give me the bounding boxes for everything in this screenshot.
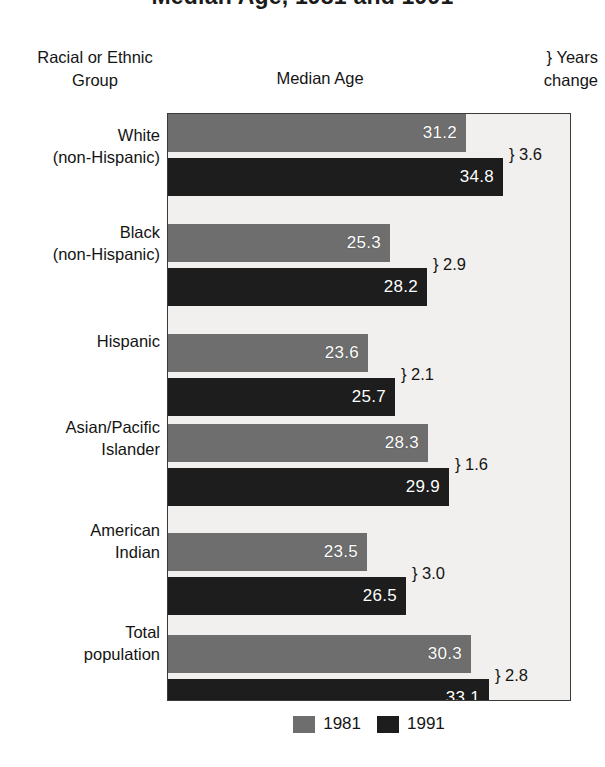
bar-hispanic-1981: 23.6 <box>167 334 368 372</box>
bar-asian-pacific-islander-1991: 29.9 <box>167 468 449 506</box>
bar-value-label: 28.3 <box>385 433 419 453</box>
chart-title: Median Age, 1981 and 1991 <box>0 0 605 10</box>
category-label-line2: Indian <box>0 541 160 563</box>
bar-value-label: 23.6 <box>325 343 359 363</box>
column-header-years-change: } Years change <box>480 46 598 92</box>
category-label-line1: Asian/Pacific <box>0 416 160 438</box>
legend-swatch-1981-icon <box>293 716 315 733</box>
category-label-line2: Islander <box>0 438 160 460</box>
bar-value-label: 31.2 <box>423 123 457 143</box>
bar-value-label: 26.5 <box>363 586 397 606</box>
category-label-line1: Black <box>0 221 160 243</box>
bar-value-label: 33.1 <box>446 688 480 701</box>
category-label-black: Black (non-Hispanic) <box>0 221 160 265</box>
bar-value-label: 25.7 <box>352 387 386 407</box>
bar-american-indian-1991: 26.5 <box>167 577 406 615</box>
bar-value-label: 29.9 <box>406 477 440 497</box>
legend-label-1981: 1981 <box>323 714 361 734</box>
category-label-line1: American <box>0 519 160 541</box>
bar-white-1991: 34.8 <box>167 158 503 196</box>
category-label-line2: population <box>0 643 160 665</box>
category-label-total-population: Total population <box>0 621 160 665</box>
category-label-line2: (non-Hispanic) <box>0 243 160 265</box>
column-header-years-line2: change <box>480 69 598 92</box>
bar-black-1981: 25.3 <box>167 224 390 262</box>
category-label-line1: Total <box>0 621 160 643</box>
change-label-total-population: } 2.8 <box>495 666 528 685</box>
change-label-white: } 3.6 <box>509 145 542 164</box>
bar-value-label: 23.5 <box>324 542 358 562</box>
bar-white-1981: 31.2 <box>167 114 466 152</box>
bar-total-population-1981: 30.3 <box>167 635 471 673</box>
category-label-asian-pacific-islander: Asian/Pacific Islander <box>0 416 160 460</box>
bar-asian-pacific-islander-1981: 28.3 <box>167 424 428 462</box>
legend-swatch-1991-icon <box>377 716 399 733</box>
bar-american-indian-1981: 23.5 <box>167 533 367 571</box>
legend-item-1991: 1991 <box>377 714 445 734</box>
bar-black-1991: 28.2 <box>167 268 427 306</box>
column-header-median-age: Median Age <box>240 69 400 88</box>
column-header-group-line1: Racial or <box>37 48 102 66</box>
column-header-group: Racial or Ethnic Group <box>22 46 168 92</box>
bar-hispanic-1991: 25.7 <box>167 378 395 416</box>
column-header-years-line1: } Years <box>480 46 598 69</box>
bar-value-label: 28.2 <box>384 277 418 297</box>
category-label-american-indian: American Indian <box>0 519 160 563</box>
category-label-line2: (non-Hispanic) <box>0 146 160 168</box>
change-label-black: } 2.9 <box>433 255 466 274</box>
legend-label-1991: 1991 <box>407 714 445 734</box>
plot-area: 31.2 34.8 } 3.6 25.3 28.2 } 2.9 23.6 25.… <box>167 113 571 701</box>
category-label-line1: Hispanic <box>0 330 160 352</box>
category-label-white: White (non-Hispanic) <box>0 124 160 168</box>
category-label-line1: White <box>0 124 160 146</box>
legend-item-1981: 1981 <box>293 714 361 734</box>
legend: 1981 1991 <box>167 714 571 734</box>
change-label-hispanic: } 2.1 <box>401 365 434 384</box>
bar-value-label: 30.3 <box>428 644 462 664</box>
category-label-hispanic: Hispanic <box>0 330 160 352</box>
change-label-american-indian: } 3.0 <box>412 564 445 583</box>
change-label-asian-pacific-islander: } 1.6 <box>455 455 488 474</box>
bar-value-label: 25.3 <box>347 233 381 253</box>
bar-total-population-1991: 33.1 <box>167 679 489 701</box>
bar-value-label: 34.8 <box>460 167 494 187</box>
